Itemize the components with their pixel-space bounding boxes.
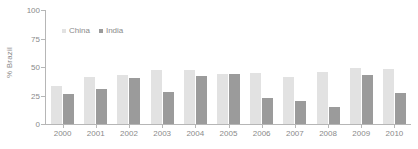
x-axis-tick-label: 2004 bbox=[186, 129, 204, 138]
legend-item-china: China bbox=[62, 27, 90, 35]
x-axis-tick-label: 2005 bbox=[220, 129, 238, 138]
bar-group bbox=[217, 10, 240, 124]
bar-china-2007 bbox=[283, 77, 294, 124]
bar-india-2010 bbox=[395, 93, 406, 124]
x-axis-tick-label: 2003 bbox=[153, 129, 171, 138]
y-axis-tick-labels: 0255075100 bbox=[14, 0, 40, 149]
y-axis-tick-label: 50 bbox=[14, 63, 40, 72]
y-axis-tick-label: 100 bbox=[14, 6, 40, 15]
bar-group bbox=[350, 10, 373, 124]
x-axis-tick-labels: 2000200120022003200420052006200720082009… bbox=[46, 129, 411, 143]
x-axis-tick-label: 2009 bbox=[352, 129, 370, 138]
bar-chart: % Brazil 0255075100 20002001200220032004… bbox=[0, 0, 418, 149]
bar-china-2010 bbox=[383, 69, 394, 124]
x-axis-tick bbox=[361, 124, 362, 128]
y-axis-tick bbox=[41, 124, 46, 125]
bar-group bbox=[283, 10, 306, 124]
bar-india-2004 bbox=[196, 76, 207, 124]
chart-legend: ChinaIndia bbox=[62, 27, 123, 35]
x-axis-tick bbox=[229, 124, 230, 128]
bar-china-2005 bbox=[217, 74, 228, 124]
x-axis-tick-label: 2007 bbox=[286, 129, 304, 138]
bar-india-2003 bbox=[163, 92, 174, 124]
x-axis-tick-label: 2010 bbox=[386, 129, 404, 138]
legend-label: China bbox=[69, 27, 90, 35]
legend-swatch-icon bbox=[99, 29, 103, 33]
bar-china-2002 bbox=[117, 75, 128, 124]
bar-china-2006 bbox=[250, 73, 261, 124]
x-axis-tick bbox=[162, 124, 163, 128]
x-axis-tick bbox=[195, 124, 196, 128]
x-axis-tick bbox=[63, 124, 64, 128]
x-axis-tick-label: 2002 bbox=[120, 129, 138, 138]
x-axis-tick bbox=[328, 124, 329, 128]
y-axis-tick-label: 0 bbox=[14, 120, 40, 129]
bar-china-2008 bbox=[317, 72, 328, 124]
bar-india-2006 bbox=[262, 98, 273, 124]
bar-india-2000 bbox=[63, 94, 74, 124]
y-axis-tick-label: 75 bbox=[14, 34, 40, 43]
bar-india-2008 bbox=[329, 107, 340, 124]
x-axis-tick-label: 2008 bbox=[319, 129, 337, 138]
x-axis-tick bbox=[96, 124, 97, 128]
bar-group bbox=[250, 10, 273, 124]
bar-china-2003 bbox=[151, 70, 162, 124]
bar-group bbox=[317, 10, 340, 124]
bar-group bbox=[151, 10, 174, 124]
bar-india-2001 bbox=[96, 89, 107, 124]
bar-china-2001 bbox=[84, 77, 95, 124]
legend-swatch-icon bbox=[62, 29, 66, 33]
x-axis-tick bbox=[262, 124, 263, 128]
y-axis-title-text: % Brazil bbox=[5, 47, 14, 78]
x-axis-tick bbox=[129, 124, 130, 128]
x-axis-tick bbox=[394, 124, 395, 128]
bar-india-2009 bbox=[362, 75, 373, 124]
bar-india-2007 bbox=[295, 101, 306, 124]
legend-item-india: India bbox=[99, 27, 123, 35]
x-axis-tick bbox=[295, 124, 296, 128]
bar-china-2004 bbox=[184, 70, 195, 124]
legend-label: India bbox=[106, 27, 123, 35]
bar-india-2002 bbox=[129, 78, 140, 124]
x-axis-tick-label: 2001 bbox=[87, 129, 105, 138]
x-axis-tick-label: 2000 bbox=[54, 129, 72, 138]
y-axis-tick-label: 25 bbox=[14, 91, 40, 100]
bar-group bbox=[383, 10, 406, 124]
bar-china-2009 bbox=[350, 68, 361, 124]
x-axis-tick-label: 2006 bbox=[253, 129, 271, 138]
bar-india-2005 bbox=[229, 74, 240, 124]
bar-china-2000 bbox=[51, 86, 62, 124]
bar-group bbox=[184, 10, 207, 124]
